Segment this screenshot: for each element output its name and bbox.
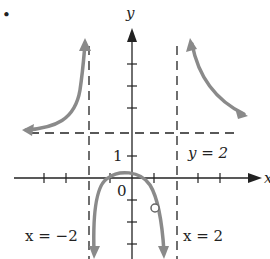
y-axis-arrow-icon xyxy=(127,28,137,42)
arrow-up-right-icon xyxy=(186,38,197,52)
y-axis-label: y xyxy=(125,4,135,22)
arrow-down-left-icon xyxy=(89,246,100,259)
asymptote-label-y2: y = 2 xyxy=(187,144,228,162)
x-axis-label: x xyxy=(264,169,270,187)
bullet: • xyxy=(2,6,11,24)
hole-point xyxy=(151,204,159,212)
y-unit-label: 1 xyxy=(113,147,123,165)
curve-right-branch xyxy=(192,44,244,114)
x-axis-arrow-icon xyxy=(248,173,262,183)
graph: • x y 1 0 y = 2 x = −2 x = 2 xyxy=(0,0,270,259)
arrow-left-icon xyxy=(22,124,34,136)
arrow-right-icon xyxy=(235,108,248,119)
asymptote-label-x2: x = 2 xyxy=(183,227,223,245)
arrow-down-right-icon xyxy=(158,246,169,259)
asymptote-label-xneg2: x = −2 xyxy=(25,227,78,245)
arrow-up-left-icon xyxy=(79,38,91,51)
curve-left-branch xyxy=(26,44,85,130)
origin-label: 0 xyxy=(117,182,127,200)
